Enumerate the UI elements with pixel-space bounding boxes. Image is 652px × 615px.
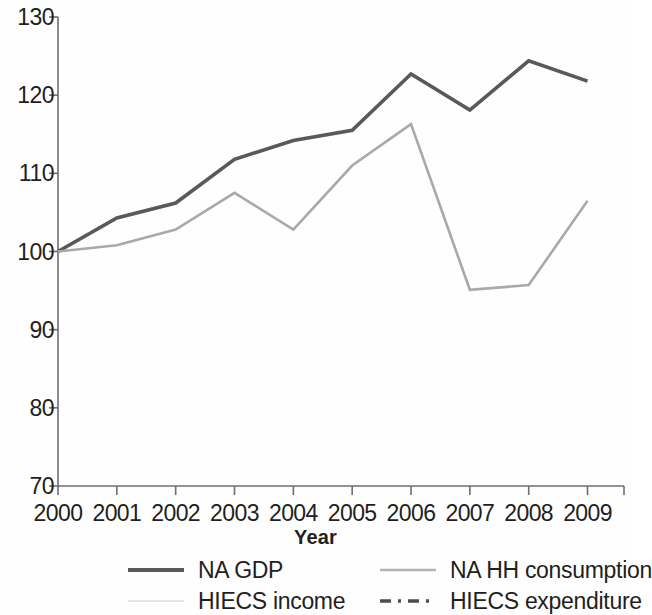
- x-tick-label: 2000: [30, 502, 86, 525]
- chart-legend: NA GDP NA HH consumption HIECS income: [0, 556, 631, 615]
- x-axis-tick-labels: 2000200120022003200420052006200720082009: [0, 492, 631, 526]
- x-tick-label: 2006: [383, 502, 439, 525]
- series-lines: [58, 61, 588, 290]
- y-tick-label: 110: [8, 162, 54, 185]
- legend-label: HIECS income: [198, 590, 345, 613]
- plot-area: 708090100110120130: [0, 0, 631, 500]
- legend-label: NA HH consumption: [450, 559, 652, 582]
- legend-label: NA GDP: [198, 559, 283, 582]
- legend-item-hiecs-expenditure[interactable]: HIECS expenditure: [378, 587, 642, 615]
- legend-line-sample-hiecs-income: [126, 594, 186, 608]
- x-tick-label: 2001: [89, 502, 145, 525]
- x-tick-label: 2002: [148, 502, 204, 525]
- axis-lines: [58, 17, 624, 486]
- x-axis-title: Year: [0, 526, 631, 549]
- legend-line-sample-na-gdp: [126, 563, 186, 577]
- x-tick-label: 2004: [265, 502, 321, 525]
- y-tick-label: 90: [8, 319, 54, 342]
- chart-canvas: [0, 0, 631, 500]
- legend-item-na-hh-consumption[interactable]: NA HH consumption: [378, 556, 652, 584]
- series-line-na-gdp: [58, 61, 588, 252]
- y-tick-label: 130: [8, 6, 54, 29]
- y-tick-label: 120: [8, 84, 54, 107]
- x-tick-label: 2007: [442, 502, 498, 525]
- x-tick-label: 2009: [560, 502, 616, 525]
- legend-line-sample-hiecs-expenditure: [378, 594, 438, 608]
- x-tick-label: 2008: [501, 502, 557, 525]
- series-line-na-hh-consumption: [58, 124, 588, 290]
- axis-ticks: [49, 17, 624, 495]
- y-axis-tick-labels: 708090100110120130: [0, 0, 54, 500]
- y-tick-label: 80: [8, 397, 54, 420]
- legend-item-na-gdp[interactable]: NA GDP: [126, 556, 283, 584]
- x-tick-label: 2003: [207, 502, 263, 525]
- legend-item-hiecs-income[interactable]: HIECS income: [126, 587, 345, 615]
- y-tick-label: 100: [8, 241, 54, 264]
- legend-label: HIECS expenditure: [450, 590, 642, 613]
- legend-line-sample-na-hh-consumption: [378, 563, 438, 577]
- x-tick-label: 2005: [324, 502, 380, 525]
